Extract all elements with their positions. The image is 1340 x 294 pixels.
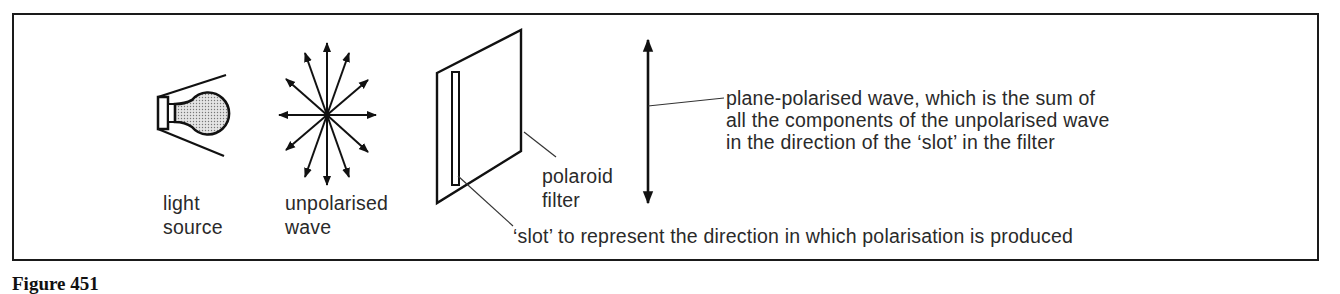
bulb-icon (158, 75, 229, 156)
polaroid-filter-label: polaroid filter (542, 164, 613, 212)
double-arrow-vertical-icon (648, 40, 724, 203)
light-source-label: light source (163, 191, 223, 239)
unpolarised-wave-label: unpolarised wave (285, 191, 388, 239)
filter-sheet-icon (437, 30, 556, 226)
figure-caption: Figure 451 (12, 274, 99, 294)
plane-polarised-label: plane-polarised wave, which is the sum o… (726, 87, 1109, 153)
star-arrows-icon (279, 43, 376, 185)
slot-label: ‘slot’ to represent the direction in whi… (513, 224, 1073, 248)
